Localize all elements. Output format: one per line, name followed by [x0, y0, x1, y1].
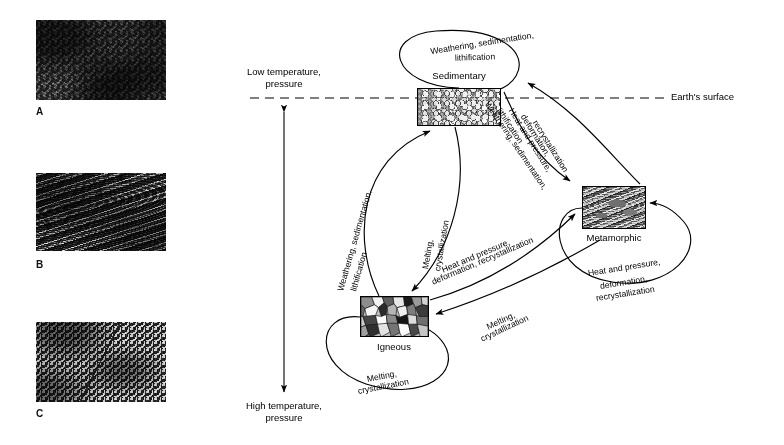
label-meta-to-ign-line2: crystallization — [479, 284, 592, 344]
low-temperature-label: Low temperature,pressure — [214, 66, 354, 89]
photo-b-label: B — [36, 259, 43, 270]
earth-surface-label: Earth's surface — [671, 91, 734, 103]
high-temperature-line2: pressure — [266, 412, 303, 423]
photo-a — [36, 20, 166, 100]
photo-c-fracture — [36, 322, 166, 402]
rock-cycle-figure: A B C — [0, 0, 784, 445]
photo-a-label: A — [36, 106, 43, 117]
photo-c-image — [36, 322, 166, 402]
photo-c — [36, 322, 166, 402]
node-igneous[interactable] — [360, 296, 429, 337]
high-temperature-label: High temperature,pressure — [214, 400, 354, 423]
igneous-texture — [361, 297, 428, 337]
label-ign-to-meta-line2: deformation, recrystallization — [430, 203, 609, 286]
photo-b-image — [36, 173, 166, 251]
node-metamorphic-caption: Metamorphic — [572, 232, 656, 243]
photo-c-label: C — [36, 408, 43, 419]
photo-a-image — [36, 20, 166, 100]
photo-b — [36, 173, 166, 251]
node-sedimentary-caption: Sedimentary — [417, 70, 501, 81]
low-temperature-line1: Low temperature, — [247, 66, 321, 77]
high-temperature-line1: High temperature, — [246, 400, 322, 411]
photo-b-shading — [36, 173, 166, 251]
low-temperature-line2: pressure — [266, 78, 303, 89]
photo-a-shading — [36, 20, 166, 100]
edge-metamorphic-to-igneous — [436, 240, 600, 314]
node-igneous-caption: Igneous — [352, 341, 436, 352]
